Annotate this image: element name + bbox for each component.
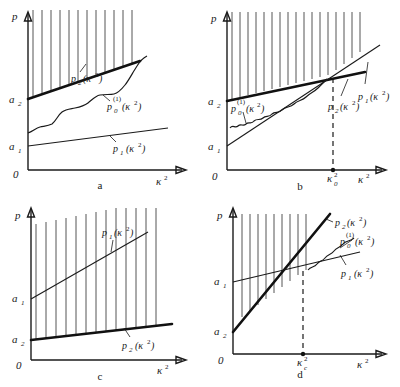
svg-text:p: p bbox=[334, 217, 340, 228]
svg-text:2: 2 bbox=[78, 79, 82, 87]
panel-a-label-p1: p1(κ2) bbox=[110, 136, 146, 157]
svg-text:a: a bbox=[9, 93, 15, 105]
svg-text:2: 2 bbox=[165, 363, 169, 371]
svg-text:0: 0 bbox=[114, 107, 118, 115]
panel-b-xtick-kappa0-2: κ02 bbox=[327, 171, 338, 188]
svg-text:κ: κ bbox=[327, 172, 333, 184]
svg-text:p: p bbox=[112, 143, 118, 154]
panel-b: p a2 a1 0 κ2 κ02 p0(1)(κ2) bbox=[200, 0, 400, 195]
panel-d-label-p0-1: p0(1)(κ2) bbox=[339, 231, 375, 250]
svg-text:p: p bbox=[210, 12, 217, 24]
svg-text:κ: κ bbox=[297, 356, 303, 368]
svg-text:a: a bbox=[214, 275, 220, 287]
svg-text:κ: κ bbox=[156, 175, 162, 187]
svg-text:1: 1 bbox=[217, 147, 221, 155]
svg-text:p: p bbox=[216, 209, 223, 221]
svg-text:0: 0 bbox=[13, 168, 19, 180]
panel-b-label-p2: p2(κ2) bbox=[327, 79, 360, 115]
svg-text:2: 2 bbox=[334, 171, 338, 179]
svg-text:κ: κ bbox=[357, 358, 363, 370]
svg-text:(κ: (κ bbox=[354, 268, 362, 280]
svg-text:κ: κ bbox=[358, 173, 364, 185]
svg-text:(1): (1) bbox=[237, 98, 246, 106]
panel-a-ytick-a2: a2 bbox=[9, 93, 22, 108]
svg-text:κ: κ bbox=[157, 364, 163, 376]
panel-a-curve-p1 bbox=[28, 128, 168, 146]
svg-text:p: p bbox=[357, 91, 363, 102]
panel-d-label-p1: p1(κ2) bbox=[340, 255, 374, 282]
svg-text:(κ: (κ bbox=[246, 103, 254, 115]
panel-c-label-p2: p2(κ2) bbox=[121, 328, 155, 354]
svg-text:): ) bbox=[385, 91, 390, 103]
svg-text:2: 2 bbox=[366, 172, 370, 180]
svg-text:2: 2 bbox=[335, 107, 339, 115]
svg-text:0: 0 bbox=[16, 359, 22, 371]
panel-b-origin-label: 0 bbox=[212, 170, 218, 182]
svg-text:0: 0 bbox=[218, 354, 224, 366]
svg-text:2: 2 bbox=[342, 223, 346, 231]
svg-text:): ) bbox=[369, 268, 374, 280]
panel-c-hatching bbox=[36, 208, 156, 339]
svg-text:p: p bbox=[340, 268, 346, 279]
panel-c-xlabel-kappa2: κ2 bbox=[157, 363, 169, 376]
panel-c: p a1 a2 0 κ2 p1(κ2) p2(κ2) c bbox=[0, 192, 200, 387]
svg-text:(κ: (κ bbox=[340, 101, 348, 113]
svg-text:p: p bbox=[70, 73, 76, 84]
svg-text:): ) bbox=[355, 101, 360, 113]
svg-text:2: 2 bbox=[223, 332, 227, 340]
svg-text:p: p bbox=[230, 103, 236, 114]
svg-text:): ) bbox=[98, 73, 103, 85]
svg-text:): ) bbox=[362, 217, 367, 229]
panel-a-ylabel-p: p bbox=[11, 10, 18, 22]
panel-c-ytick-a2: a2 bbox=[12, 333, 25, 348]
svg-text:a: a bbox=[208, 95, 214, 107]
svg-text:a: a bbox=[214, 325, 220, 337]
svg-text:1: 1 bbox=[21, 299, 25, 307]
svg-text:0: 0 bbox=[238, 109, 242, 117]
panel-b-letter: b bbox=[297, 180, 303, 192]
panel-c-ytick-a1: a1 bbox=[12, 292, 25, 307]
panel-a-xlabel-kappa2: κ2 bbox=[156, 174, 168, 187]
svg-text:): ) bbox=[150, 340, 155, 352]
svg-text:(κ: (κ bbox=[122, 101, 130, 113]
panel-d-ylabel-p: p bbox=[216, 209, 223, 221]
svg-text:(κ: (κ bbox=[83, 73, 91, 85]
panel-a-label-p2: p2(κ2) bbox=[70, 64, 103, 87]
svg-text:1: 1 bbox=[365, 97, 369, 105]
panel-d-letter: d bbox=[297, 368, 303, 380]
svg-text:(κ: (κ bbox=[114, 227, 122, 239]
svg-text:2: 2 bbox=[164, 174, 168, 182]
svg-text:a: a bbox=[208, 140, 214, 152]
svg-text:(κ: (κ bbox=[135, 340, 143, 352]
panel-b-ytick-a2: a2 bbox=[208, 95, 221, 110]
svg-text:0: 0 bbox=[347, 242, 351, 250]
svg-text:1: 1 bbox=[109, 233, 113, 241]
panel-d: p a1 a2 0 κ2 κc2 p2(κ2) p0( bbox=[200, 192, 400, 387]
panel-c-curve-p1 bbox=[31, 232, 148, 299]
svg-text:): ) bbox=[370, 236, 375, 248]
svg-text:p: p bbox=[11, 10, 18, 22]
svg-text:c: c bbox=[304, 364, 308, 372]
panel-a: p a2 a1 0 κ2 p2(κ2) p0(1)(κ2) bbox=[0, 0, 200, 195]
panel-a-origin-label: 0 bbox=[13, 168, 19, 180]
svg-text:(κ: (κ bbox=[355, 236, 363, 248]
svg-text:p: p bbox=[14, 209, 21, 221]
svg-text:p: p bbox=[339, 236, 345, 247]
panel-d-label-p2: p2(κ2) bbox=[326, 215, 367, 231]
panel-b-ytick-a1: a1 bbox=[208, 140, 221, 155]
panel-a-letter: a bbox=[98, 179, 103, 191]
svg-text:): ) bbox=[260, 103, 265, 115]
svg-text:p: p bbox=[106, 101, 112, 112]
panel-d-curve-p2 bbox=[233, 214, 330, 332]
svg-text:(κ: (κ bbox=[347, 217, 355, 229]
svg-text:): ) bbox=[129, 227, 134, 239]
svg-text:(κ: (κ bbox=[370, 91, 378, 103]
svg-text:1: 1 bbox=[18, 147, 22, 155]
panel-c-letter: c bbox=[98, 370, 103, 382]
svg-text:a: a bbox=[12, 333, 18, 345]
svg-text:a: a bbox=[9, 140, 15, 152]
svg-text:2: 2 bbox=[304, 355, 308, 363]
panel-c-origin-label: 0 bbox=[16, 359, 22, 371]
svg-text:p: p bbox=[101, 227, 107, 238]
panel-c-ylabel-p: p bbox=[14, 209, 21, 221]
